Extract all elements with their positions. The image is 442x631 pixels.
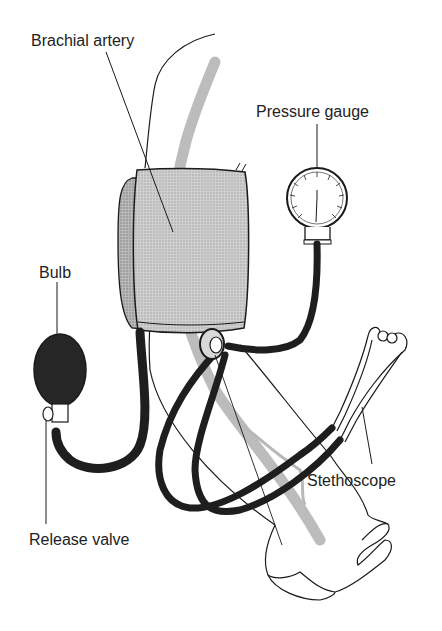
label-release-valve: Release valve: [29, 532, 130, 548]
cuff: [118, 163, 249, 333]
bulb: [34, 282, 86, 524]
bp-measurement-diagram: Brachial artery Pressure gauge Bulb Stet…: [0, 0, 442, 631]
label-bulb: Bulb: [39, 265, 71, 281]
stethoscope-headset: [332, 327, 407, 464]
label-pressure-gauge: Pressure gauge: [256, 104, 369, 120]
label-brachial-artery: Brachial artery: [31, 33, 134, 49]
pressure-gauge: [287, 124, 347, 244]
label-stethoscope: Stethoscope: [307, 473, 396, 489]
